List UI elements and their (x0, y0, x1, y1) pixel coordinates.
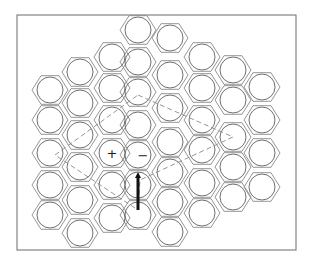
atom-circle (220, 57, 246, 83)
atom-circle (125, 112, 151, 138)
dislocation-lattice-diagram: +− (0, 0, 313, 263)
atom-circle (125, 17, 151, 43)
atom-circle (37, 140, 63, 166)
positive-charge: + (107, 146, 118, 161)
atom-circle (220, 154, 246, 180)
atom-circle (99, 75, 125, 101)
atom-circle (249, 74, 275, 100)
atom-circle (249, 107, 275, 133)
atom-circle (157, 25, 183, 51)
atom-circle (67, 59, 93, 85)
atom-circle (37, 107, 63, 133)
atom-circle (157, 219, 183, 245)
atom-circle (189, 200, 215, 226)
atom-circle (125, 49, 151, 75)
atom-circle (157, 159, 183, 185)
atom-circle (99, 44, 125, 70)
atom-circle (220, 184, 246, 210)
atom-circle (99, 205, 125, 231)
atom-circle (220, 87, 246, 113)
atom-circle (220, 124, 246, 150)
atom-circle (157, 189, 183, 215)
atom-circle (99, 172, 125, 198)
atom-circle (37, 77, 63, 103)
atom-circle (249, 140, 275, 166)
atom-circle (37, 172, 63, 198)
atom-circle (249, 174, 275, 200)
atom-circle (189, 107, 215, 133)
atom-circle (67, 154, 93, 180)
negative-charge: − (138, 148, 149, 163)
atom-circle (67, 187, 93, 213)
atom-circle (189, 75, 215, 101)
atom-circle (67, 220, 93, 246)
atom-circle (157, 129, 183, 155)
arrowhead-icon (135, 172, 141, 178)
atom-circle (157, 95, 183, 121)
atom-circle (37, 202, 63, 228)
atom-circle (189, 170, 215, 196)
diagram-frame (17, 15, 296, 250)
atom-circle (189, 137, 215, 163)
atom-circle (189, 44, 215, 70)
atom-circle (67, 90, 93, 116)
atom-circle (67, 122, 93, 148)
atom-circle (157, 62, 183, 88)
hexagonal-cells (32, 16, 280, 248)
